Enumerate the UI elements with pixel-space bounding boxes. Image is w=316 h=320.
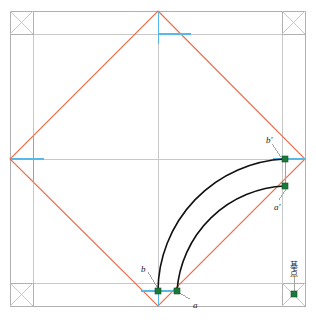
inscribed-diamond [10,11,305,306]
corner-cross-box-top-right [282,11,306,35]
outer-arc-b-to-bprime [158,159,285,291]
leader-a [179,293,190,299]
point-b[interactable] [155,288,161,294]
point-label-b: b [141,265,146,274]
figure-canvas: b a b' a' 基点 [0,0,316,320]
point-label-a-prime: a' [274,203,280,212]
leader-bprime [272,144,281,157]
point-label-b-prime: b' [266,136,272,145]
corner-cross-box-top-left [10,11,34,35]
point-kiten[interactable] [291,291,297,297]
point-label-a: a [193,301,198,310]
point-aprime[interactable] [282,183,288,189]
base-point-label: 基点 [288,262,299,279]
point-bprime[interactable] [282,156,288,162]
leader-b [148,272,157,287]
point-a[interactable] [174,288,180,294]
corner-cross-box-bottom-left [10,283,34,307]
construction-diagram-svg [0,0,316,320]
